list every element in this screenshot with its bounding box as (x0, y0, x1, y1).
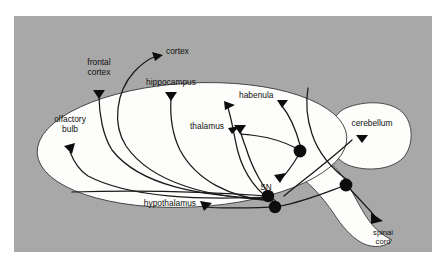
arrowhead-cortex (152, 52, 163, 61)
label-hippocampus: hippocampus (146, 77, 196, 87)
label-thalamus: thalamus (190, 121, 224, 131)
figure-root: cortex frontal cortex hippocampus habenu… (0, 0, 446, 269)
cerebrum-outline (34, 75, 350, 215)
label-cortex: cortex (166, 46, 190, 56)
label-spinal-cord-line2: cord (376, 237, 391, 246)
soma-1 (294, 145, 307, 158)
label-olfactory-bulb-line1: olfactory (54, 114, 86, 124)
soma-4 (340, 179, 353, 192)
label-spinal-cord-line1: spinal (373, 228, 393, 237)
label-frontal-cortex-line1: frontal (87, 57, 110, 67)
arrowhead-spinal-cord (371, 213, 383, 224)
label-habenula: habenula (239, 90, 274, 100)
label-olfactory-bulb-line2: bulb (62, 124, 78, 134)
label-hypothalamus: hypothalamus (144, 198, 196, 208)
brain-outlines (34, 75, 411, 247)
label-cerebellum: cerebellum (352, 118, 393, 128)
soma-3 (269, 201, 281, 213)
axon-to-hypothalamus (206, 207, 272, 208)
label-frontal-cortex-line2: cortex (88, 67, 112, 77)
diagram-panel: cortex frontal cortex hippocampus habenu… (14, 16, 432, 252)
label-substantia-nigra: SN (260, 183, 271, 192)
brain-diagram-svg: cortex frontal cortex hippocampus habenu… (14, 16, 432, 252)
